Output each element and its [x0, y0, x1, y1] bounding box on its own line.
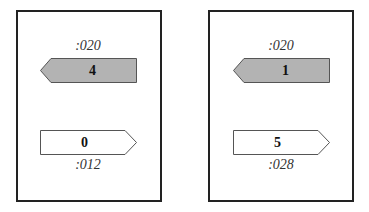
top-label: :020	[231, 38, 331, 54]
left-arrow-shape: 4	[40, 58, 137, 83]
right-arrow-value: 0	[40, 130, 137, 155]
top-label: :020	[38, 38, 138, 54]
left-arrow-shape: 1	[233, 58, 330, 83]
left-arrow-value: 4	[40, 58, 137, 83]
left-arrow-value: 1	[233, 58, 330, 83]
bottom-label: :028	[231, 157, 331, 173]
right-arrow-value: 5	[233, 130, 330, 155]
right-arrow-shape: 5	[233, 130, 330, 155]
right-arrow-shape: 0	[40, 130, 137, 155]
bottom-label: :012	[38, 157, 138, 173]
